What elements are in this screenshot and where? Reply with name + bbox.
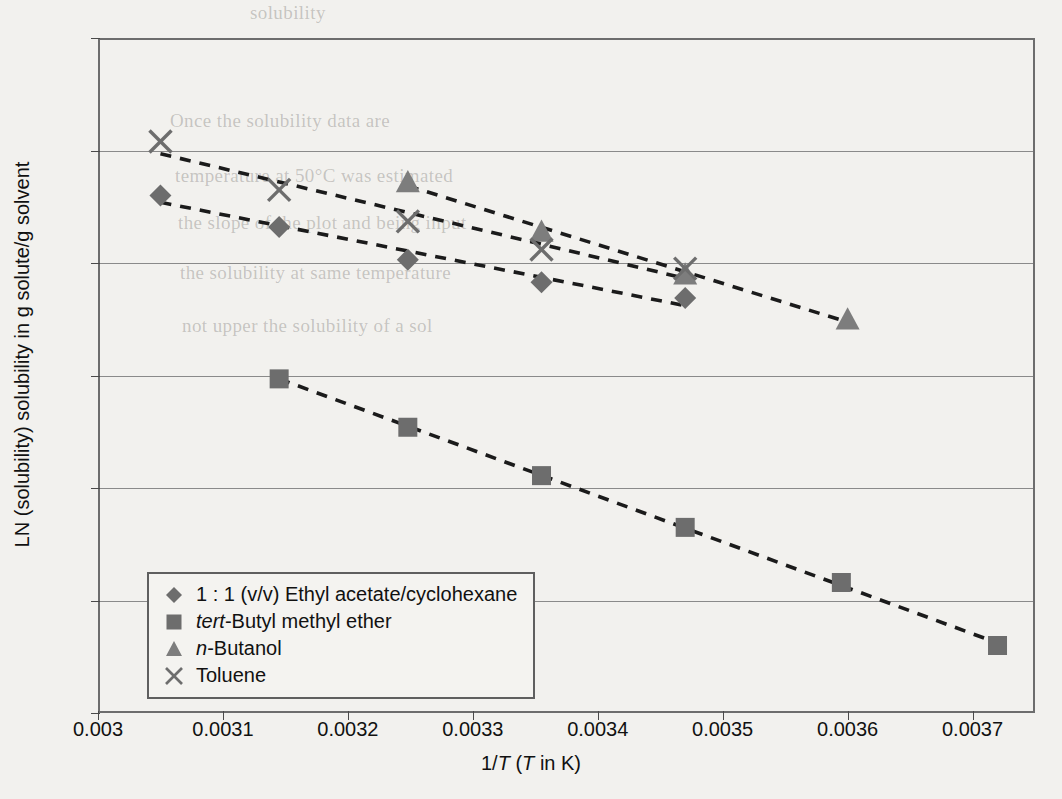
legend-item-label: n-Butanol bbox=[196, 637, 282, 660]
x-axis-tick-label: 0.003 bbox=[73, 718, 123, 741]
data-point-diamond bbox=[268, 216, 290, 238]
x-axis-tick-label: 0.0034 bbox=[567, 718, 628, 741]
data-point-triangle bbox=[836, 307, 860, 329]
x-axis-tick-label: 0.0037 bbox=[942, 718, 1003, 741]
legend-item-2[interactable]: n-Butanol bbox=[161, 635, 517, 662]
legend-marker-square bbox=[161, 611, 187, 633]
x-axis-tick-label: 0.0032 bbox=[317, 718, 378, 741]
legend-item-label: tert-Butyl methyl ether bbox=[196, 610, 392, 633]
data-point-triangle bbox=[396, 170, 420, 192]
legend-item-1[interactable]: tert-Butyl methyl ether bbox=[161, 608, 517, 635]
x-axis-title: 1/T (T in K) bbox=[0, 752, 1062, 775]
data-point-triangle bbox=[673, 262, 697, 284]
legend-item-0[interactable]: 1 : 1 (v/v) Ethyl acetate/cyclohexane bbox=[161, 581, 517, 608]
data-point-square bbox=[532, 466, 551, 485]
square-marker-icon bbox=[161, 611, 187, 633]
triangle-marker-icon bbox=[161, 638, 187, 660]
diamond-marker-icon bbox=[161, 584, 187, 606]
data-point-square bbox=[676, 518, 695, 537]
chart-legend: 1 : 1 (v/v) Ethyl acetate/cyclohexaneter… bbox=[147, 572, 535, 699]
series-2 bbox=[396, 170, 860, 329]
series-0 bbox=[149, 185, 696, 309]
legend-marker-cross bbox=[161, 665, 187, 687]
y-axis-title: LN (solubility) solubility in g solute/g… bbox=[11, 0, 34, 715]
legend-item-label: 1 : 1 (v/v) Ethyl acetate/cyclohexane bbox=[196, 583, 517, 606]
data-point-square bbox=[398, 418, 417, 437]
data-point-square bbox=[832, 573, 851, 592]
legend-item-3[interactable]: Toluene bbox=[161, 662, 517, 689]
solubility-vant-hoff-chart: LN (solubility) solubility in g solute/g… bbox=[0, 0, 1062, 799]
x-axis-tick-label: 0.0033 bbox=[442, 718, 503, 741]
legend-marker-triangle bbox=[161, 638, 187, 660]
trendline bbox=[160, 154, 685, 279]
data-point-square bbox=[270, 369, 289, 388]
legend-marker-diamond bbox=[161, 584, 187, 606]
series-3 bbox=[149, 131, 696, 280]
data-point-square bbox=[988, 636, 1007, 655]
cross-marker-icon bbox=[161, 665, 187, 687]
trendline bbox=[408, 186, 848, 322]
x-axis-tick-label: 0.0036 bbox=[817, 718, 878, 741]
legend-item-label: Toluene bbox=[196, 664, 266, 687]
data-point-diamond bbox=[397, 249, 419, 271]
data-point-cross bbox=[531, 239, 553, 261]
data-point-cross bbox=[149, 131, 171, 153]
x-axis-tick-label: 0.0035 bbox=[692, 718, 753, 741]
data-point-cross bbox=[397, 210, 419, 232]
x-axis-tick-label: 0.0031 bbox=[192, 718, 253, 741]
